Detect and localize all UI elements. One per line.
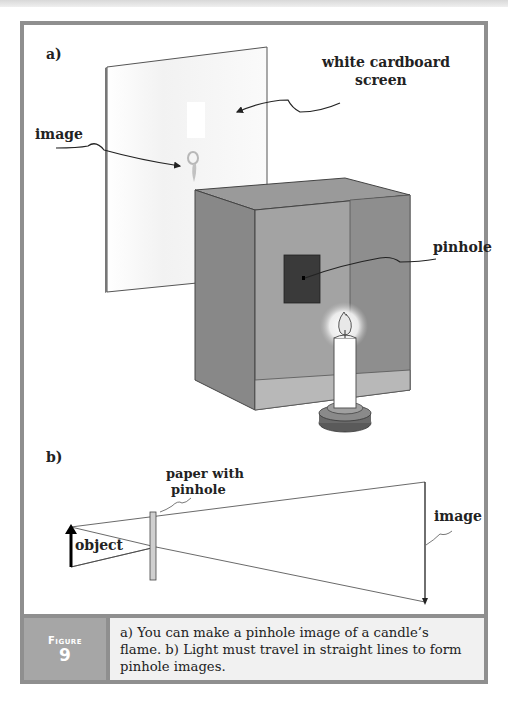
- object-label: object: [75, 538, 123, 553]
- paper-callout-line1: paper with: [166, 466, 244, 481]
- screen-callout-line2: screen: [355, 73, 407, 88]
- pinhole-callout: pinhole: [433, 240, 492, 255]
- caption-text: a) You can make a pinhole image of a can…: [110, 618, 484, 680]
- image-callout: image: [35, 127, 83, 142]
- image-label-b: image: [434, 509, 482, 524]
- pinhole-box: [195, 178, 410, 410]
- figure-caption: Figure 9 a) You can make a pinhole image…: [24, 618, 484, 680]
- part-a-label: a): [46, 47, 62, 62]
- figure-word: Figure: [48, 635, 82, 646]
- figure-number: 9: [59, 646, 71, 664]
- paper-callout-line2: pinhole: [171, 482, 226, 497]
- figure-label-box: Figure 9: [24, 618, 106, 680]
- part-b-label: b): [46, 450, 62, 465]
- screen-callout-line1: white cardboard: [322, 55, 450, 70]
- figure-illustration: [0, 0, 508, 721]
